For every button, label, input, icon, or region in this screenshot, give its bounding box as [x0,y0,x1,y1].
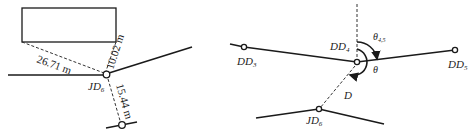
distance-label-15: 15.44 m [114,82,136,120]
node-label-dd3: DD3 [236,55,257,69]
left-panel: 26.71 m 10.02 m 15.44 m JD6 [8,8,192,128]
node-dd5[interactable] [452,47,457,52]
node-dd3[interactable] [241,44,246,49]
distance-label-26: 26.71 m [35,53,73,77]
distance-label-D: D [343,89,352,101]
diagram-canvas: 26.71 m 10.02 m 15.44 m JD6 DD3 DD4 DD5 … [0,0,470,136]
angle-label-theta45: θ4,5 [373,31,385,43]
node-label-jd6-left: JD6 [88,80,105,94]
road-lower-right [319,109,384,124]
distance-line-D [320,66,355,108]
angle-label-theta: θ [373,64,378,75]
road-right-segment [109,47,192,73]
right-panel: DD3 DD4 DD5 JD6 θ4,5 θ D [230,4,468,128]
node-dd4[interactable] [354,59,359,64]
node-label-dd4: DD4 [329,40,350,54]
node-lower[interactable] [119,122,126,129]
building-rect [22,8,116,42]
node-jd6-left[interactable] [103,71,110,78]
node-jd6-right[interactable] [316,106,321,111]
node-label-jd6-right: JD6 [306,114,323,128]
road-dd4-dd5 [357,50,455,62]
node-label-dd5: DD5 [447,58,468,72]
